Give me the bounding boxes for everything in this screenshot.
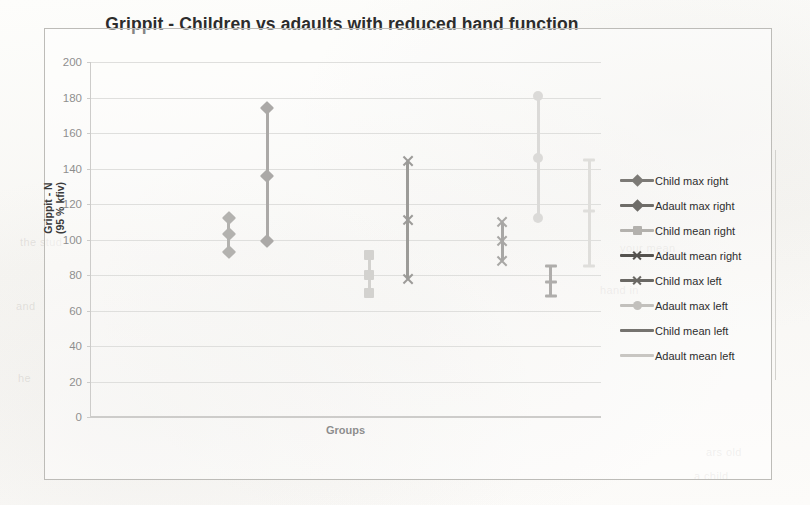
legend-item-child-mean-left[interactable]: Child mean left [620,318,770,343]
legend-swatch-icon [620,225,654,237]
legend-swatch-icon [620,325,654,337]
legend-item-adault-max-right[interactable]: Adault max right [620,193,770,218]
legend-swatch-icon [620,175,654,187]
legend-label: Adault max left [655,300,728,312]
chart-legend: Child max rightAdault max rightChild mea… [620,168,770,368]
legend-swatch-icon [620,275,654,287]
legend-item-adault-max-left[interactable]: Adault max left [620,293,770,318]
legend-label: Child mean right [655,225,735,237]
legend-label: Adault mean right [655,250,741,262]
legend-item-child-max-right[interactable]: Child max right [620,168,770,193]
y-axis-title: Grippit - N (95 % kfiv) [42,148,66,268]
y-axis-title-line1: Grippit - N [42,148,54,268]
legend-label: Child max right [655,175,728,187]
legend-label: Child max left [655,275,722,287]
legend-swatch-icon [620,300,654,312]
legend-item-child-max-left[interactable]: Child max left [620,268,770,293]
legend-label: Adault mean left [655,350,735,362]
legend-divider [775,150,776,380]
legend-swatch-icon [620,250,654,262]
legend-item-child-mean-right[interactable]: Child mean right [620,218,770,243]
legend-label: Child mean left [655,325,728,337]
legend-label: Adault max right [655,200,734,212]
legend-item-adault-mean-left[interactable]: Adault mean left [620,343,770,368]
legend-item-adault-mean-right[interactable]: Adault mean right [620,243,770,268]
legend-swatch-icon [620,200,654,212]
y-axis-title-line2: (95 % kfiv) [54,148,66,268]
legend-swatch-icon [620,350,654,362]
